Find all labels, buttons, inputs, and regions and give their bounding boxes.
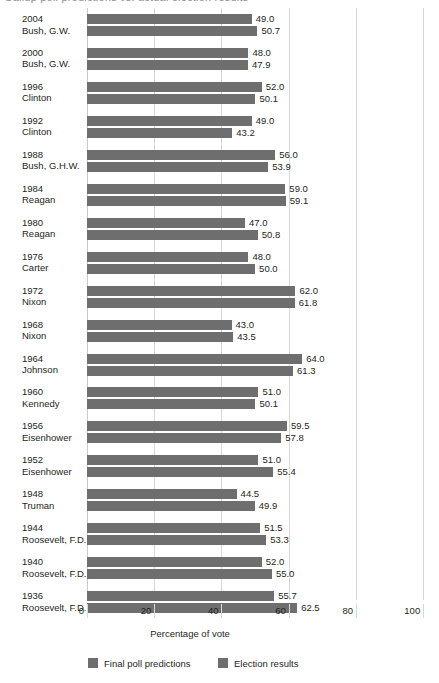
chart-row: 1996Clinton52.050.1 — [0, 82, 439, 110]
chart-row: 1992Clinton49.043.2 — [0, 116, 439, 144]
value-label-result: 43.5 — [237, 332, 256, 342]
row-label: 1956Eisenhower — [22, 420, 84, 443]
row-year: 1976 — [22, 251, 84, 263]
row-year: 1968 — [22, 319, 84, 331]
row-year: 1992 — [22, 115, 84, 127]
value-label-poll: 48.0 — [252, 48, 271, 58]
bar-final-poll-prediction — [87, 150, 275, 160]
row-label: 1996Clinton — [22, 81, 84, 104]
row-label: 1968Nixon — [22, 319, 84, 342]
x-tick-40 — [221, 604, 222, 618]
value-label-poll: 51.5 — [264, 523, 283, 533]
bar-election-result — [87, 298, 295, 308]
bar-final-poll-prediction — [87, 14, 252, 24]
row-year: 1988 — [22, 149, 84, 161]
bar-election-result — [87, 162, 268, 172]
row-year: 1944 — [22, 522, 84, 534]
value-label-poll: 48.0 — [252, 252, 271, 262]
bar-final-poll-prediction — [87, 184, 285, 194]
value-label-result: 50.0 — [259, 264, 278, 274]
chart-row: 1976Carter48.050.0 — [0, 252, 439, 280]
row-year: 2004 — [22, 13, 84, 25]
row-label: 1960Kennedy — [22, 386, 84, 409]
bar-election-result — [87, 128, 232, 138]
row-label: 1988Bush, G.H.W. — [22, 149, 84, 172]
bar-election-result — [87, 569, 272, 579]
x-tick-60 — [289, 604, 290, 618]
bar-final-poll-prediction — [87, 489, 237, 499]
bar-final-poll-prediction — [87, 421, 287, 431]
row-label: 1952Eisenhower — [22, 454, 84, 477]
row-candidate: Nixon — [22, 296, 84, 308]
chart-row: 1960Kennedy51.050.1 — [0, 387, 439, 415]
row-label: 1948Truman — [22, 488, 84, 511]
x-tick-80 — [356, 604, 357, 618]
value-label-poll: 62.0 — [299, 286, 318, 296]
chart-row: 1964Johnson64.061.3 — [0, 354, 439, 382]
legend-label: Election results — [234, 658, 298, 669]
bar-final-poll-prediction — [87, 252, 248, 262]
bar-election-result — [87, 196, 286, 206]
legend-item[interactable]: Final poll predictions — [88, 656, 191, 670]
row-candidate: Nixon — [22, 330, 84, 342]
row-label: 2004Bush, G.W. — [22, 13, 84, 36]
row-label: 1980Reagan — [22, 217, 84, 240]
row-year: 1956 — [22, 420, 84, 432]
chart-row: 1952Eisenhower51.055.4 — [0, 455, 439, 483]
bar-election-result — [87, 366, 293, 376]
row-year: 1952 — [22, 454, 84, 466]
x-tick-20 — [154, 604, 155, 618]
chart-row: 1968Nixon43.043.5 — [0, 320, 439, 348]
x-tick-label: 0 — [79, 605, 87, 616]
row-year: 1964 — [22, 353, 84, 365]
chart-row: 1984Reagan59.059.1 — [0, 184, 439, 212]
x-tick-label: 60 — [275, 605, 289, 616]
row-candidate: Bush, G.W. — [22, 58, 84, 70]
title-text: Gallup poll predictions vs. actual elect… — [4, 0, 248, 3]
x-tick-label: 100 — [404, 605, 423, 616]
bar-final-poll-prediction — [87, 354, 302, 364]
x-tick-100 — [423, 604, 424, 618]
value-label-poll: 52.0 — [266, 557, 285, 567]
row-label: 1976Carter — [22, 251, 84, 274]
row-label: 2000Bush, G.W. — [22, 47, 84, 70]
value-label-poll: 44.5 — [241, 489, 260, 499]
chart-row: 2000Bush, G.W.48.047.9 — [0, 48, 439, 76]
bar-election-result — [87, 230, 258, 240]
legend-item[interactable]: Election results — [218, 656, 298, 670]
bar-final-poll-prediction — [87, 48, 248, 58]
row-label: 1992Clinton — [22, 115, 84, 138]
bar-election-result — [87, 94, 255, 104]
plot-area: 2004Bush, G.W.49.050.72000Bush, G.W.48.0… — [0, 8, 439, 600]
row-label: 1984Reagan — [22, 183, 84, 206]
row-year: 2000 — [22, 47, 84, 59]
chart-row: 1972Nixon62.061.8 — [0, 286, 439, 314]
row-candidate: Clinton — [22, 126, 84, 138]
value-label-result: 43.2 — [236, 128, 255, 138]
x-tick-0 — [87, 604, 88, 618]
x-axis: 020406080100 — [0, 600, 439, 618]
value-label-result: 50.8 — [262, 230, 281, 240]
value-label-poll: 59.5 — [291, 421, 310, 431]
row-label: 1944Roosevelt, F.D. — [22, 522, 84, 545]
legend-label: Final poll predictions — [104, 658, 191, 669]
chart-row: 1988Bush, G.H.W.56.053.9 — [0, 150, 439, 178]
row-label: 1940Roosevelt, F.D. — [22, 556, 84, 579]
row-year: 1996 — [22, 81, 84, 93]
bar-final-poll-prediction — [87, 523, 260, 533]
chart-row: 2004Bush, G.W.49.050.7 — [0, 14, 439, 42]
row-candidate: Truman — [22, 500, 84, 512]
bar-final-poll-prediction — [87, 387, 258, 397]
value-label-result: 53.3 — [270, 535, 289, 545]
legend-swatch-icon — [88, 658, 98, 668]
bar-final-poll-prediction — [87, 218, 245, 228]
row-candidate: Kennedy — [22, 398, 84, 410]
x-tick-label: 80 — [342, 605, 356, 616]
value-label-poll: 59.0 — [289, 184, 308, 194]
bar-election-result — [87, 264, 255, 274]
row-candidate: Eisenhower — [22, 466, 84, 478]
row-year: 1984 — [22, 183, 84, 195]
value-label-result: 57.8 — [285, 433, 304, 443]
bar-final-poll-prediction — [87, 286, 295, 296]
grouped-bar-chart: 2004Bush, G.W.49.050.72000Bush, G.W.48.0… — [0, 8, 439, 683]
